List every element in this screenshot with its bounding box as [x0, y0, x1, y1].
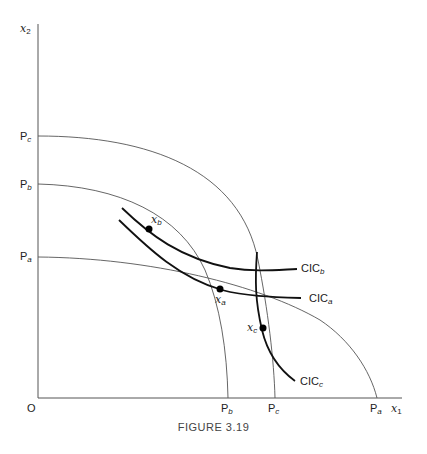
cic-c-text: CIC: [300, 375, 319, 387]
x-label-pc-sub: c: [275, 407, 279, 416]
x-label-pa-sub: a: [377, 407, 381, 416]
y-axis-label: x2: [20, 23, 31, 36]
cic-a-text: CIC: [309, 292, 328, 304]
point-xc-label: xc: [247, 322, 257, 335]
point-xb-label: xb: [151, 214, 162, 227]
x-axis-sub: 1: [397, 407, 401, 416]
x-label-pb-sub: b: [228, 407, 232, 416]
cic-a-label: CICa: [309, 293, 332, 306]
cic-b-sub: b: [320, 267, 324, 276]
origin-label: O: [27, 403, 36, 414]
point-xa-label: xa: [215, 294, 226, 307]
cic-b-label: CICb: [301, 263, 324, 276]
cic-b-text: CIC: [301, 262, 320, 274]
point-xb-sub: b: [157, 218, 161, 227]
cic-c-sub: c: [319, 380, 323, 389]
y-label-pa: Pa: [20, 251, 32, 264]
y-label-pc: Pc: [20, 131, 31, 144]
point-xa: [217, 286, 224, 293]
y-label-pa-sub: a: [27, 255, 31, 264]
y-label-pb: Pb: [20, 179, 32, 192]
frontier-pa: [38, 257, 377, 398]
point-xc-sub: c: [253, 326, 257, 335]
diagram-canvas: [0, 0, 427, 454]
cic-c-label: CICc: [300, 376, 323, 389]
frontier-pb: [38, 184, 228, 398]
y-label-pc-sub: c: [27, 135, 31, 144]
figure-caption: FIGURE 3.19: [0, 421, 427, 433]
cic-b-curve: [122, 208, 297, 270]
x-label-pa: Pa: [370, 403, 382, 416]
y-label-pb-sub: b: [27, 183, 31, 192]
x-label-pc: Pc: [268, 403, 279, 416]
x-label-pb: Pb: [221, 403, 233, 416]
x-axis-label: x1: [391, 403, 402, 416]
point-xa-sub: a: [221, 298, 225, 307]
cic-c-curve: [256, 252, 295, 381]
cic-a-curve: [119, 220, 301, 298]
cic-a-sub: a: [328, 297, 332, 306]
point-xc: [260, 325, 267, 332]
y-axis-sub: 2: [26, 27, 30, 36]
